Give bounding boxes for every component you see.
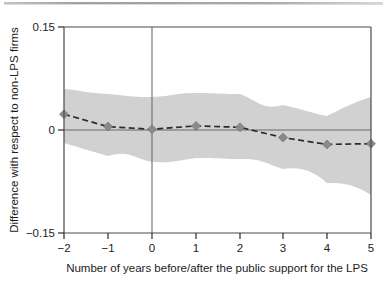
x-tick-label: 4 (324, 242, 331, 254)
y-axis-ticks (58, 27, 64, 233)
x-tick-label: −1 (101, 242, 114, 254)
event-study-chart: 0.15 0 −0.15 −2 −1 0 1 2 3 4 5 Number (0, 0, 387, 285)
x-tick-label: 5 (368, 242, 374, 254)
x-axis-ticks (64, 233, 371, 239)
y-tick-label: 0.15 (33, 21, 55, 33)
x-tick-label: 0 (149, 242, 155, 254)
x-axis-tick-labels: −2 −1 0 1 2 3 4 5 (57, 242, 374, 254)
x-tick-label: −2 (57, 242, 70, 254)
x-tick-label: 3 (280, 242, 286, 254)
y-tick-label: −0.15 (26, 227, 55, 239)
x-tick-label: 2 (237, 242, 243, 254)
y-tick-label: 0 (49, 124, 55, 136)
x-axis-title: Number of years before/after the public … (66, 262, 368, 274)
x-tick-label: 1 (193, 242, 199, 254)
figure-container: 0.15 0 −0.15 −2 −1 0 1 2 3 4 5 Number (0, 0, 387, 285)
y-axis-tick-labels: 0.15 0 −0.15 (26, 21, 55, 239)
y-axis-title: Difference with respect to non-LPS firms (8, 27, 20, 233)
scan-artifact-line-secondary (4, 4, 383, 5)
